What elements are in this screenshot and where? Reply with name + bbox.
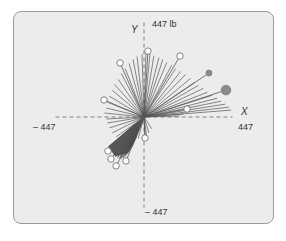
open-marker (184, 106, 190, 112)
y-axis-min-label: – 447 (145, 207, 168, 217)
filled-marker (221, 85, 231, 95)
open-marker (177, 53, 183, 59)
force-vectors (104, 54, 231, 139)
open-marker (113, 163, 119, 169)
x-axis-min-label: – 447 (33, 122, 56, 132)
open-marker (142, 135, 148, 141)
x-axis-max-label: 447 (238, 122, 253, 132)
filled-marker (206, 70, 212, 76)
open-marker (105, 148, 111, 154)
open-marker (145, 48, 151, 54)
open-marker (101, 97, 107, 103)
x-axis-name: X (241, 106, 248, 117)
open-marker (108, 156, 114, 162)
vector-plot (0, 0, 286, 241)
open-marker (123, 158, 129, 164)
y-axis-name: Y (131, 24, 138, 35)
marker-vector-line (144, 59, 178, 117)
open-marker (117, 60, 123, 66)
y-axis-max-label: 447 lb (152, 19, 177, 29)
